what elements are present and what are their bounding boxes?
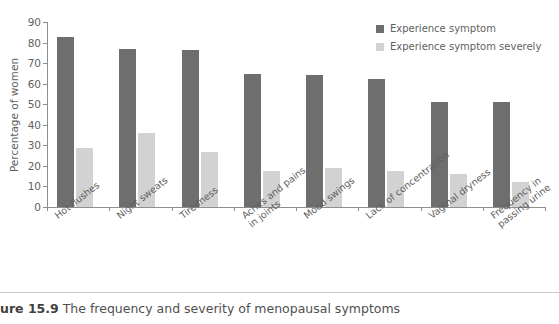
- bar-group: [47, 22, 109, 207]
- x-axis-tick-mark: [296, 207, 297, 211]
- legend-swatch-icon: [376, 43, 384, 51]
- x-axis-tick-mark: [172, 207, 173, 211]
- figure-15-9: Percentage of women 0102030405060708090 …: [0, 0, 559, 324]
- caption-divider: [0, 292, 559, 293]
- y-axis-tick-label: 20: [28, 161, 41, 172]
- y-axis-tick-label: 40: [28, 120, 41, 131]
- y-axis-tick-label: 90: [28, 17, 41, 28]
- legend-label: Experience symptom severely: [390, 40, 541, 54]
- y-axis-tick-label: 30: [28, 140, 41, 151]
- x-axis-tick-mark: [545, 207, 546, 211]
- y-axis-tick-label: 0: [34, 202, 41, 213]
- figure-caption-text: The frequency and severity of menopausal…: [63, 301, 400, 316]
- y-axis-tick-label: 60: [28, 78, 41, 89]
- y-axis-tick-label: 70: [28, 58, 41, 69]
- y-axis-tick-label: 80: [28, 37, 41, 48]
- bar-experience: [182, 50, 199, 207]
- bar-experience: [493, 102, 510, 207]
- bar-experience: [57, 37, 74, 207]
- chart-legend: Experience symptomExperience symptom sev…: [376, 22, 541, 58]
- x-axis-tick-mark: [109, 207, 110, 211]
- x-axis-tick-mark: [234, 207, 235, 211]
- x-axis-tick-mark: [483, 207, 484, 211]
- legend-label: Experience symptom: [390, 22, 496, 36]
- bar-group: [172, 22, 234, 207]
- bar-experience: [244, 74, 261, 207]
- x-axis-tick-mark: [421, 207, 422, 211]
- y-axis-tick-label: 50: [28, 99, 41, 110]
- legend-item: Experience symptom: [376, 22, 541, 36]
- y-axis-tick-label: 10: [28, 181, 41, 192]
- bar-experience: [119, 49, 136, 207]
- figure-caption: ure 15.9 The frequency and severity of m…: [0, 300, 559, 317]
- figure-number: ure 15.9: [0, 301, 59, 316]
- bar-experience: [368, 79, 385, 207]
- y-axis-title: Percentage of women: [6, 22, 22, 208]
- legend-item: Experience symptom severely: [376, 40, 541, 54]
- legend-swatch-icon: [376, 25, 384, 33]
- x-axis-tick-mark: [358, 207, 359, 211]
- x-axis-tick-mark: [47, 207, 48, 211]
- bar-experience: [306, 75, 323, 207]
